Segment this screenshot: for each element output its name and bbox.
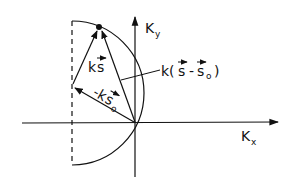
ky-label: K y: [145, 20, 161, 39]
svg-text:k: k: [88, 59, 97, 75]
kx-axis: [22, 122, 278, 123]
ewald-diagram: K y K x k s -k s o k( s - s o ): [0, 0, 296, 189]
label-k-s-minus-s0: k( s - s o ): [161, 62, 219, 81]
label-minus-ks0: -k s o: [89, 84, 124, 115]
label-ks: k s: [88, 58, 106, 75]
kx-label: K x: [241, 128, 257, 147]
svg-text:s: s: [178, 63, 185, 79]
svg-text:K: K: [241, 128, 251, 144]
svg-text:s: s: [97, 59, 104, 75]
svg-text:o: o: [206, 71, 212, 81]
lattice-point: [96, 24, 102, 30]
svg-text:): ): [214, 63, 219, 79]
vector-k-s-minus-s0: [102, 31, 135, 122]
svg-text:s: s: [197, 63, 204, 79]
svg-text:x: x: [251, 137, 257, 147]
svg-text:K: K: [145, 20, 155, 36]
svg-text:k(: k(: [161, 63, 175, 79]
vector-ks: [73, 31, 97, 84]
svg-text:-: -: [189, 63, 194, 79]
svg-text:y: y: [155, 29, 161, 39]
